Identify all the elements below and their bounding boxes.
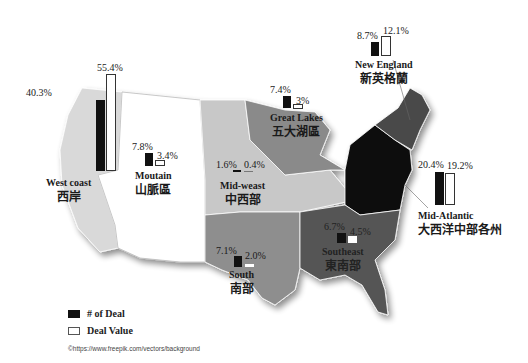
west-coast-deal-bar xyxy=(96,100,105,171)
west-coast-name-en: West coast xyxy=(46,177,91,188)
south-value-bar xyxy=(245,264,254,267)
mid-west-value-pct: 0.4% xyxy=(244,160,265,170)
west-coast-value-bar xyxy=(106,74,116,171)
mid-atlantic-value-bar xyxy=(445,173,455,205)
mid-west-name-en: Mid-weast xyxy=(220,180,265,191)
west-coast-deal-pct: 40.3% xyxy=(26,88,52,98)
mountain-deal-bar xyxy=(145,153,153,166)
mid-west-label: Mid-weast 中西部 xyxy=(220,180,265,208)
new-england-deal-bar xyxy=(371,42,379,56)
legend-label-value: Deal Value xyxy=(87,325,133,336)
south-name-en: South xyxy=(229,269,254,280)
south-deal-pct: 7.1% xyxy=(216,246,237,256)
image-credit: ©https://www.freepik.com/vectors/backgro… xyxy=(68,345,200,352)
west-coast-name-zh: 西岸 xyxy=(46,190,91,205)
mountain-name-zh: 山脈區 xyxy=(135,183,172,198)
southeast-name-zh: 東南部 xyxy=(322,259,364,274)
legend-label-deal: # of Deal xyxy=(87,308,125,319)
new-england-value-bar xyxy=(381,36,391,56)
mid-west-deal-pct: 1.6% xyxy=(216,160,237,170)
mid-atlantic-name-en: Mid-Atlantic xyxy=(418,210,474,221)
west-coast-label: West coast 西岸 xyxy=(46,177,91,205)
mid-west-deal-bar xyxy=(233,170,241,172)
mid-west-name-zh: 中西部 xyxy=(220,193,265,208)
legend-item-value: Deal Value xyxy=(68,322,133,339)
mountain-name-en: Moutain xyxy=(135,170,172,181)
mid-atlantic-name-zh: 大西洋中部各州 xyxy=(418,223,502,238)
new-england-label: New England 新英格蘭 xyxy=(355,59,413,87)
legend-item-deal: # of Deal xyxy=(68,305,133,322)
mid-west-value-bar xyxy=(244,171,253,172)
south-value-pct: 2.0% xyxy=(245,251,266,261)
mountain-value-bar xyxy=(155,160,165,166)
mid-atlantic-deal-pct: 20.4% xyxy=(418,160,444,170)
southeast-value-bar xyxy=(348,236,357,243)
south-name-zh: 南部 xyxy=(229,282,254,297)
mid-atlantic-leader-line xyxy=(405,185,428,208)
new-england-name-en: New England xyxy=(355,59,413,70)
mid-atlantic-deal-bar xyxy=(435,172,444,205)
great-lakes-name-en: Great Lakes xyxy=(270,112,323,123)
southeast-deal-pct: 6.7% xyxy=(324,222,345,232)
south-label: South 南部 xyxy=(229,269,254,297)
legend-swatch-value xyxy=(68,327,80,335)
legend-swatch-deal xyxy=(68,310,80,318)
south-deal-bar xyxy=(234,256,242,267)
mid-atlantic-value-pct: 19.2% xyxy=(447,161,473,171)
great-lakes-name-zh: 五大湖區 xyxy=(270,125,323,140)
mountain-deal-pct: 7.8% xyxy=(132,142,153,152)
new-england-name-zh: 新英格蘭 xyxy=(355,72,413,87)
new-england-value-pct: 12.1% xyxy=(383,26,409,36)
southeast-label: Southeast 東南部 xyxy=(322,246,364,274)
new-england-deal-pct: 8.7% xyxy=(357,31,378,41)
great-lakes-deal-bar xyxy=(283,96,291,108)
mountain-label: Moutain 山脈區 xyxy=(135,170,172,198)
legend: # of Deal Deal Value xyxy=(68,305,133,339)
west-coast-value-pct: 55.4% xyxy=(97,63,123,73)
southeast-name-en: Southeast xyxy=(322,246,364,257)
mid-atlantic-label: Mid-Atlantic 大西洋中部各州 xyxy=(418,210,502,238)
great-lakes-deal-pct: 7.4% xyxy=(270,85,291,95)
great-lakes-label: Great Lakes 五大湖區 xyxy=(270,112,323,140)
great-lakes-value-bar xyxy=(293,104,303,109)
southeast-deal-bar xyxy=(337,233,346,243)
